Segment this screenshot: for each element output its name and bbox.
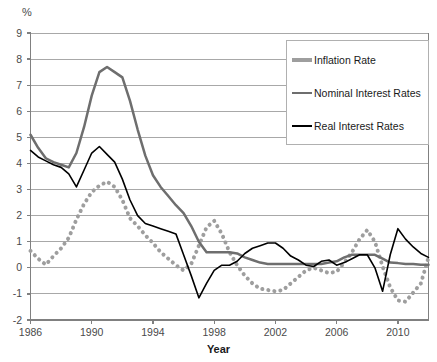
y-tick-label: -1	[0, 288, 22, 298]
line-chart: % 9876543210-1-2 19861990199419982002200…	[0, 0, 437, 362]
legend-item-real-interest-rates: Real Interest Rates	[292, 119, 404, 133]
legend-item-inflation-rate: Inflation Rate	[292, 53, 376, 67]
x-tick-label: 1990	[69, 327, 115, 338]
x-tick-label: 1998	[191, 327, 237, 338]
y-tick-label: 8	[0, 54, 22, 64]
legend-swatch-icon	[292, 92, 312, 94]
series-line-real-interest-rates	[31, 147, 429, 298]
x-tick-label: 2002	[252, 327, 298, 338]
y-tick-label: 6	[0, 106, 22, 116]
x-axis-title: Year	[0, 343, 437, 355]
y-tick-label: 4	[0, 158, 22, 168]
y-tick-label: 1	[0, 236, 22, 246]
legend-item-nominal-interest-rates: Nominal Interest Rates	[292, 86, 421, 100]
x-tick-label: 1986	[8, 327, 54, 338]
x-tick-label: 2006	[314, 327, 360, 338]
legend-label: Inflation Rate	[314, 54, 376, 66]
y-tick-label: 2	[0, 210, 22, 220]
x-tick-label: 2010	[375, 327, 421, 338]
y-tick-label: 5	[0, 132, 22, 142]
y-tick-label: -2	[0, 315, 22, 325]
legend-swatch-icon	[292, 58, 312, 62]
y-tick-label: 7	[0, 80, 22, 90]
legend-label: Nominal Interest Rates	[314, 87, 421, 99]
y-tick-label: 9	[0, 28, 22, 38]
chart-legend: Inflation Rate Nominal Interest Rates Re…	[286, 40, 429, 145]
legend-swatch-icon	[292, 125, 312, 127]
legend-label: Real Interest Rates	[314, 120, 404, 132]
x-tick-label: 1994	[130, 327, 176, 338]
y-tick-label: 3	[0, 184, 22, 194]
y-axis-unit-label: %	[22, 6, 32, 18]
y-tick-label: 0	[0, 262, 22, 272]
